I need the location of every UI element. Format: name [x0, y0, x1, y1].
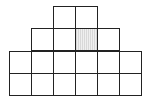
grid-cell — [31, 73, 54, 96]
grid-diagram — [0, 0, 149, 112]
grid-cell — [53, 73, 76, 96]
grid-cell — [119, 51, 142, 74]
shaded-grid-cell — [75, 28, 98, 51]
grid-cell — [9, 73, 32, 96]
grid-cell — [53, 51, 76, 74]
grid-cell — [97, 73, 120, 96]
grid-cell — [31, 28, 54, 51]
grid-cell — [75, 6, 98, 29]
grid-cell — [53, 28, 76, 51]
grid-cell — [119, 73, 142, 96]
grid-cell — [31, 51, 54, 74]
grid-cell — [97, 51, 120, 74]
grid-cell — [53, 6, 76, 29]
grid-cell — [9, 51, 32, 74]
grid-cell — [75, 51, 98, 74]
grid-cell — [75, 73, 98, 96]
grid-cell — [97, 28, 120, 51]
